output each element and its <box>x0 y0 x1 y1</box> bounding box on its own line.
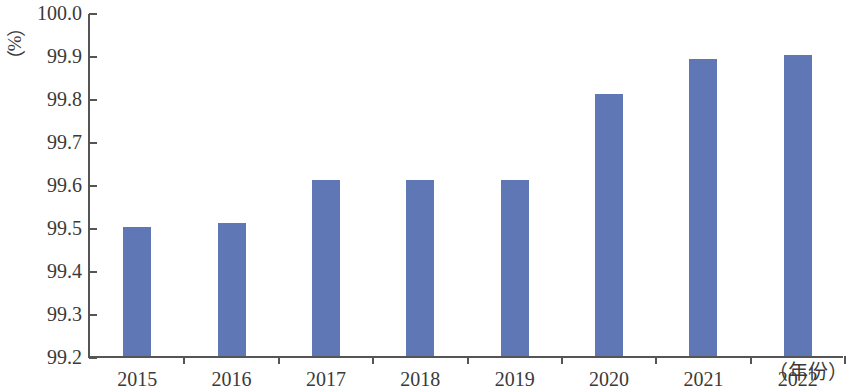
y-tick-mark <box>89 228 97 230</box>
x-tick-mark-line <box>183 356 185 364</box>
y-tick-mark <box>89 314 97 316</box>
x-tick-mark-line <box>750 356 752 364</box>
plot-area: 100.099.999.899.799.699.599.499.399.2 20… <box>88 14 843 358</box>
x-tick-mark-line <box>278 356 280 364</box>
y-tick-label: 99.7 <box>47 131 82 153</box>
bar <box>595 94 623 356</box>
y-tick-label: 99.3 <box>47 303 82 325</box>
y-tick-label: 99.9 <box>47 45 82 67</box>
y-tick-label: 100.0 <box>37 2 82 24</box>
bar <box>501 180 529 356</box>
y-tick-mark <box>89 56 97 58</box>
y-tick-label: 99.2 <box>47 346 82 368</box>
bar <box>123 227 151 356</box>
y-tick-label: 99.4 <box>47 260 82 282</box>
x-tick-mark-line <box>655 356 657 364</box>
x-tick-label: 2016 <box>212 368 252 390</box>
y-tick-mark <box>89 185 97 187</box>
y-tick-label: 99.8 <box>47 88 82 110</box>
bar-chart: （%） 100.099.999.899.799.699.599.499.399.… <box>0 0 859 391</box>
bar <box>784 55 812 356</box>
x-tick-mark-line <box>561 356 563 364</box>
bar <box>406 180 434 356</box>
y-tick-mark <box>89 99 97 101</box>
bar <box>218 223 246 356</box>
x-tick-label: 2018 <box>400 368 440 390</box>
bar <box>312 180 340 356</box>
x-tick-label: 2021 <box>683 368 723 390</box>
x-tick-label: 2020 <box>589 368 629 390</box>
x-tick-mark-line <box>467 356 469 364</box>
y-tick-mark <box>89 357 97 359</box>
y-tick-label: 99.6 <box>47 174 82 196</box>
bar <box>689 59 717 356</box>
y-tick-mark <box>89 142 97 144</box>
y-tick-mark <box>89 271 97 273</box>
x-tick-label: 2017 <box>306 368 346 390</box>
x-tick-label: 2015 <box>117 368 157 390</box>
y-tick-label: 99.5 <box>47 217 82 239</box>
x-tick-mark-line <box>372 356 374 364</box>
x-tick-label: 2019 <box>495 368 535 390</box>
y-tick-mark <box>89 13 97 15</box>
y-axis-unit-label: （%） <box>0 28 54 58</box>
x-axis-unit-label: （年份） <box>768 360 848 384</box>
